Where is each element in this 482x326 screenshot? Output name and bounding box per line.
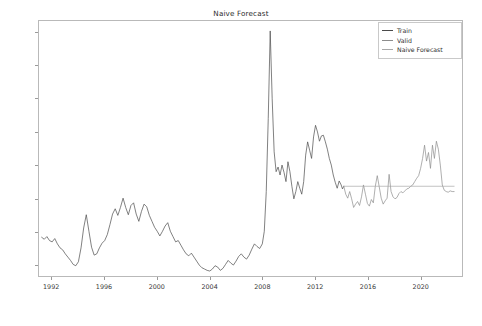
x-axis-tick-label: 2004 [201, 283, 217, 291]
x-axis-tick-label: 2016 [360, 283, 376, 291]
x-axis-tick-mark [104, 277, 105, 280]
series-line-train [42, 31, 344, 271]
x-axis-tick-mark [262, 277, 263, 280]
y-axis-tick-mark [35, 199, 38, 200]
x-axis-tick-mark [210, 277, 211, 280]
x-axis-tick-label: 2000 [149, 283, 165, 291]
legend-line-swatch-icon [382, 40, 393, 41]
y-axis-tick-mark [35, 65, 38, 66]
x-axis-tick-mark [157, 277, 158, 280]
x-axis-tick-mark [368, 277, 369, 280]
legend-line-swatch-icon [382, 49, 393, 50]
legend-label: Naive Forecast [397, 46, 443, 53]
chart-figure: Naive Forecast 200300400500600700800900 … [0, 0, 482, 326]
y-axis-tick-mark [35, 32, 38, 33]
x-axis-tick-mark [315, 277, 316, 280]
x-axis-tick-mark [51, 277, 52, 280]
y-axis-tick-mark [35, 98, 38, 99]
plot-area [38, 20, 463, 277]
y-axis-tick-mark [35, 232, 38, 233]
x-axis-tick-mark [421, 277, 422, 280]
x-axis-tick-label: 2008 [254, 283, 270, 291]
legend-entry[interactable]: Train [382, 26, 459, 36]
x-axis-tick-label: 1996 [96, 283, 112, 291]
y-axis-tick-mark [35, 165, 38, 166]
legend-line-swatch-icon [382, 30, 393, 31]
x-axis-tick-label: 2020 [413, 283, 429, 291]
legend-entry[interactable]: Naive Forecast [382, 45, 459, 55]
chart-title: Naive Forecast [0, 9, 482, 18]
legend-entry[interactable]: Valid [382, 36, 459, 46]
x-axis-tick-label: 1992 [43, 283, 59, 291]
y-axis-tick-mark [35, 265, 38, 266]
chart-legend: TrainValidNaive Forecast [378, 22, 462, 59]
series-line-valid [344, 141, 454, 207]
series-canvas [39, 21, 462, 276]
legend-label: Valid [397, 37, 412, 44]
legend-label: Train [397, 27, 412, 34]
y-axis-tick-mark [35, 132, 38, 133]
x-axis-tick-label: 2012 [307, 283, 323, 291]
